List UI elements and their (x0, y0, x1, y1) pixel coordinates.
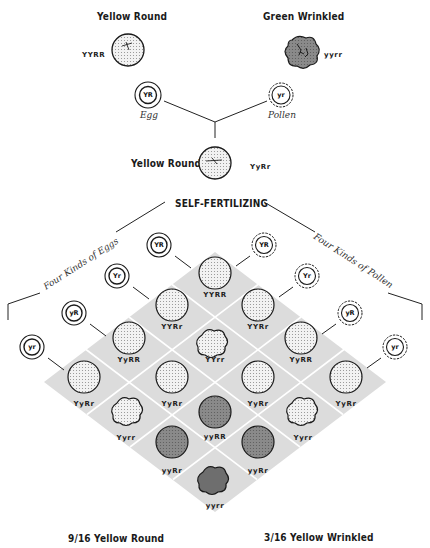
cell-genotype: YYRr (247, 323, 268, 331)
cell-genotype: YyRr (248, 400, 269, 408)
cell-genotype: YyRR (118, 356, 141, 364)
pollen-gamete-label: yr (277, 91, 284, 99)
ratio-right-fraction: 3/16 (264, 531, 287, 544)
egg-gamete-2: Yr (113, 272, 121, 280)
cell-genotype: YYRR (203, 291, 226, 299)
ratio-right-label: Yellow Wrinkled (290, 531, 374, 544)
seed-f1-icon (199, 147, 231, 179)
pollen-gamete-1: YR (259, 241, 269, 249)
ratio-left: 9/16 Yellow Round (68, 532, 164, 545)
pollen-gamete-2: Yr (303, 272, 311, 280)
ratio-left-label: Yellow Round (94, 532, 164, 545)
seed-green-wrinkled-icon (285, 36, 319, 68)
cell-genotype: yyRr (162, 467, 182, 475)
dihybrid-cross-diagram: Yellow Round YYRR Green Wrinkled yyrr Eg… (0, 0, 430, 548)
egg-gamete-3: yR (69, 309, 78, 317)
egg-gamete-4: yr (28, 343, 35, 351)
cell-genotype: yyrr (206, 502, 224, 510)
cell-genotype: yyRr (248, 467, 268, 475)
egg-gamete-1: YR (154, 241, 164, 249)
cell-genotype: YYrr (205, 356, 224, 364)
ratio-left-fraction: 9/16 (68, 532, 91, 545)
cell-genotype: YyRR (290, 356, 313, 364)
cell-genotype: Yyrr (294, 434, 313, 442)
cell-genotype: Yyrr (117, 434, 136, 442)
cell-genotype: YyRr (162, 400, 183, 408)
four-kinds-of-pollen-label: Four Kinds of Pollen (311, 231, 395, 290)
seed-yellow-round-icon (112, 34, 144, 66)
diagram-graphics: Four Kinds of Eggs Four Kinds of Pollen (0, 0, 430, 548)
cell-genotype: YyRr (74, 400, 95, 408)
pollen-gamete-3: yR (345, 309, 354, 317)
ratio-right: 3/16 Yellow Wrinkled (264, 531, 374, 544)
cell-genotype: yyRR (204, 433, 226, 441)
pollen-gamete-4: yr (391, 343, 398, 351)
cell-genotype: YyRr (336, 400, 357, 408)
cell-genotype: YYRr (161, 323, 182, 331)
egg-gamete-label: YR (143, 91, 153, 99)
